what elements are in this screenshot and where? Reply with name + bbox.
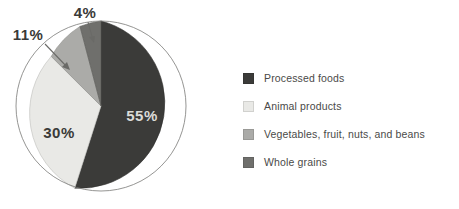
pie-value-label-11: 11%: [13, 26, 44, 43]
legend-item-animal-products[interactable]: Animal products: [243, 92, 453, 120]
legend-item-processed-foods[interactable]: Processed foods: [243, 64, 453, 92]
pie-value-label-4: 4%: [74, 4, 97, 21]
pie-chart-figure: 55% 30% 11% 4% Processed foods Animal pr…: [0, 0, 459, 209]
legend-label-animal-products: Animal products: [264, 100, 342, 112]
pie-value-label-55: 55%: [126, 107, 158, 124]
legend-label-vegetables-fruit-nuts-beans: Vegetables, fruit, nuts, and beans: [264, 128, 425, 140]
pie-chart-area: 55% 30% 11% 4%: [0, 0, 230, 209]
chart-legend: Processed foods Animal products Vegetabl…: [243, 64, 453, 176]
legend-item-vegetables-fruit-nuts-beans[interactable]: Vegetables, fruit, nuts, and beans: [243, 120, 453, 148]
legend-swatch-vegetables-fruit-nuts-beans: [243, 129, 254, 140]
pie-value-label-30: 30%: [43, 124, 75, 141]
legend-label-whole-grains: Whole grains: [264, 156, 327, 168]
legend-swatch-processed-foods: [243, 73, 254, 84]
pie-chart-svg: 55% 30% 11% 4%: [0, 0, 230, 209]
legend-label-processed-foods: Processed foods: [264, 72, 344, 84]
legend-swatch-animal-products: [243, 101, 254, 112]
legend-swatch-whole-grains: [243, 157, 254, 168]
legend-item-whole-grains[interactable]: Whole grains: [243, 148, 453, 176]
